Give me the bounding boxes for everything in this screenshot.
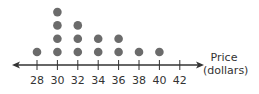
dot-plot: 2830323436384042 — [0, 0, 259, 94]
tick-label: 32 — [71, 74, 85, 87]
data-dot — [74, 48, 83, 57]
data-dot — [53, 8, 62, 17]
data-dot — [135, 48, 144, 57]
tick-labels: 2830323436384042 — [30, 74, 187, 87]
data-dots — [33, 8, 164, 57]
data-dot — [94, 48, 103, 57]
x-axis-title-line-1: Price — [203, 51, 245, 64]
data-dot — [114, 48, 123, 57]
tick-label: 28 — [30, 74, 44, 87]
tick-label: 36 — [112, 74, 126, 87]
data-dot — [94, 34, 103, 43]
data-dot — [53, 48, 62, 57]
number-line — [12, 62, 204, 69]
x-axis-title: Price (dollars) — [203, 51, 245, 77]
x-axis-title-line-2: (dollars) — [203, 64, 245, 77]
tick-label: 34 — [91, 74, 105, 87]
tick-label: 42 — [173, 74, 187, 87]
data-dot — [74, 34, 83, 43]
tick-label: 40 — [152, 74, 166, 87]
data-dot — [114, 34, 123, 43]
data-dot — [33, 48, 42, 57]
data-dot — [155, 48, 164, 57]
data-dot — [53, 21, 62, 30]
tick-label: 38 — [132, 74, 146, 87]
data-dot — [74, 21, 83, 30]
tick-label: 30 — [50, 74, 64, 87]
data-dot — [53, 34, 62, 43]
